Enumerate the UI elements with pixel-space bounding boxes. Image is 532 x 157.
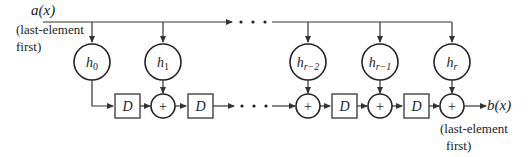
tap-h0: h0 [74,44,110,80]
svg-text:D: D [410,99,421,114]
input-note-line2: first) [16,39,41,54]
output-note-line1: (last-element [440,121,508,136]
svg-text:D: D [338,99,349,114]
adder-r: + [440,94,464,118]
input-bus [43,20,452,23]
svg-text:+: + [304,99,312,114]
adder-r-1: + [368,94,392,118]
adder-r-2: + [296,94,320,118]
svg-text:D: D [121,99,132,114]
svg-text:+: + [448,99,456,114]
adder-1: + [151,94,175,118]
svg-text:D: D [194,99,205,114]
delay-2: D [188,94,213,118]
delay-4: D [404,94,429,118]
input-note-line1: (last-element [16,22,84,37]
tap-hr-2: hr−2 [290,44,326,80]
svg-text:+: + [376,99,384,114]
svg-text:+: + [159,99,167,114]
output-label: b(x) [487,97,511,114]
transversal-filter-diagram: a(x) (last-element first) h0 h1 hr−2 hr−… [0,0,532,157]
delay-3: D [332,94,357,118]
input-label: a(x) [31,2,55,19]
tap-hr: hr [434,44,470,80]
delay-1: D [115,94,140,118]
output-note-line2: first) [446,138,471,153]
bottom-ellipsis [240,104,267,107]
tap-h1: h1 [145,44,181,80]
tap-hr-1: hr−1 [362,44,398,80]
